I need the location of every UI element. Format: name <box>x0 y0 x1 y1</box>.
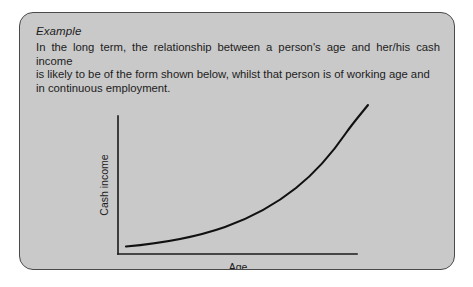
body-line-2: is likely to be of the form shown below,… <box>36 68 440 82</box>
cash-income-curve <box>126 105 368 247</box>
example-body-text: In the long term, the relationship betwe… <box>36 41 440 95</box>
example-callout-card: Example In the long term, the relationsh… <box>19 12 455 270</box>
body-line-1: In the long term, the relationship betwe… <box>36 41 440 68</box>
x-axis-label: Age <box>229 261 248 270</box>
card-inner: Example In the long term, the relationsh… <box>20 13 454 269</box>
cash-income-vs-age-chart: Age Cash income <box>20 91 455 270</box>
example-heading: Example <box>36 25 81 37</box>
y-axis-label: Cash income <box>98 154 110 215</box>
chart-svg: Age Cash income <box>20 91 455 270</box>
